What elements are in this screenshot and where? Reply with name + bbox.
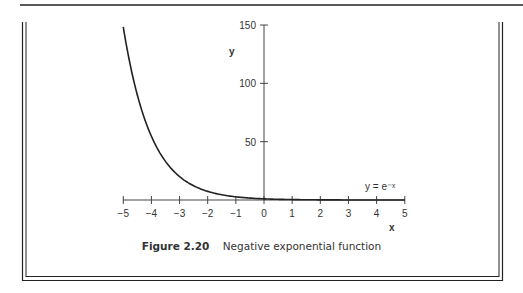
x-tick-label: −2	[202, 208, 214, 219]
x-tick-label: −4	[146, 208, 158, 219]
x-tick-label: 4	[374, 208, 380, 219]
x-axis-label: x	[389, 222, 395, 233]
y-tick-label: 100	[239, 78, 256, 89]
figure-caption: Figure 2.20 Negative exponential functio…	[0, 240, 523, 252]
figure-title: Negative exponential function	[223, 240, 381, 252]
x-tick-label: −1	[230, 208, 242, 219]
y-tick-label: 150	[239, 20, 256, 31]
x-tick-label: −3	[174, 208, 186, 219]
x-tick-label: 2	[318, 208, 324, 219]
axes	[123, 25, 405, 200]
figure-number: Figure 2.20	[142, 240, 210, 252]
x-tick-label: 5	[402, 208, 408, 219]
x-tick-label: 0	[261, 208, 267, 219]
x-tick-label: 1	[289, 208, 295, 219]
y-axis-label: y	[229, 46, 235, 57]
x-tick-label: −5	[118, 208, 130, 219]
curve-label: y = e⁻ˣ	[365, 181, 396, 192]
y-tick-label: 50	[245, 137, 257, 148]
x-tick-label: 3	[346, 208, 352, 219]
